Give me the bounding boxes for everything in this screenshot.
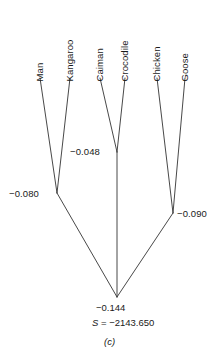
node-label-crocodiles: −0.048 [70, 147, 100, 157]
node-label-mammals: −0.080 [9, 189, 39, 199]
score-symbol: S [92, 317, 98, 328]
branch-caiman [100, 78, 117, 152]
panel-caption: (c) [104, 337, 115, 347]
leaf-label-caiman: Caiman [95, 48, 105, 81]
leaf-label-kangaroo: Kangaroo [65, 39, 75, 81]
score-line: S = −2143.650 [92, 318, 154, 328]
score-value: −2143.650 [109, 317, 154, 328]
branch-goose [173, 78, 185, 213]
branch-chicken [157, 78, 173, 213]
tree-branches [0, 0, 224, 354]
branch-kangaroo [57, 78, 70, 193]
branch-crocodile [117, 78, 125, 152]
leaf-label-chicken: Chicken [152, 46, 162, 81]
leaf-label-man: Man [35, 63, 45, 82]
score-equals: = [101, 317, 107, 328]
branch-man [40, 78, 57, 193]
phylogenetic-tree-figure: Man Kangaroo Caiman Crocodile Chicken Go… [0, 0, 224, 354]
leaf-label-goose: Goose [180, 53, 190, 82]
node-label-root: −0.144 [96, 303, 125, 313]
branch-birds-root [117, 213, 173, 297]
branch-mammals-root [57, 193, 117, 297]
leaf-label-crocodile: Crocodile [120, 40, 130, 81]
node-label-birds: −0.090 [177, 209, 207, 219]
